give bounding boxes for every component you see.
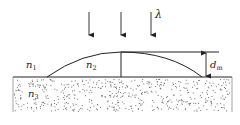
stipple-dot (19, 84, 20, 85)
stipple-dot (141, 104, 142, 105)
stipple-dot (56, 104, 57, 105)
stipple-dot (134, 80, 135, 81)
stipple-dot (118, 105, 119, 106)
stipple-dot (74, 90, 75, 91)
stipple-dot (31, 107, 32, 108)
stipple-dot (151, 87, 152, 88)
medium-n1-label: n1 (26, 59, 37, 72)
stipple-dot (105, 83, 106, 84)
stipple-dot (159, 86, 160, 87)
stipple-dot (159, 79, 160, 80)
stipple-dot (226, 79, 227, 80)
stipple-dot (68, 87, 69, 88)
stipple-dot (113, 107, 114, 108)
stipple-dot (14, 95, 15, 96)
stipple-dot (58, 109, 59, 110)
stipple-dot (47, 95, 48, 96)
stipple-dot (33, 84, 34, 85)
stipple-dot (64, 85, 65, 86)
stipple-dot (186, 80, 187, 81)
stipple-dot (167, 80, 168, 81)
stipple-dot (68, 95, 69, 96)
stipple-dot (197, 84, 198, 85)
stipple-dot (223, 99, 224, 100)
stipple-dot (64, 95, 65, 96)
stipple-dot (213, 90, 214, 91)
stipple-dot (221, 89, 222, 90)
stipple-dot (36, 109, 37, 110)
stipple-dot (116, 93, 117, 94)
stipple-dot (188, 92, 189, 93)
stipple-dot (118, 110, 119, 111)
stipple-dot (229, 83, 230, 84)
stipple-dot (194, 85, 195, 86)
stipple-dot (131, 81, 132, 82)
stipple-dot (43, 85, 44, 86)
stipple-dot (16, 101, 17, 102)
stipple-dot (186, 102, 187, 103)
stipple-dot (43, 105, 44, 106)
stipple-dot (97, 109, 98, 110)
stipple-dot (44, 89, 45, 90)
stipple-dot (99, 80, 100, 81)
stipple-dot (206, 92, 207, 93)
stipple-dot (112, 93, 113, 94)
stipple-dot (66, 102, 67, 103)
stipple-dot (195, 103, 196, 104)
stipple-dot (36, 104, 37, 105)
stipple-dot (46, 98, 47, 99)
stipple-dot (121, 82, 122, 83)
stipple-dot (124, 103, 125, 104)
stipple-dot (114, 79, 115, 80)
stipple-dot (73, 104, 74, 105)
stipple-dot (37, 81, 38, 82)
stipple-dot (160, 84, 161, 85)
stipple-dot (31, 109, 32, 110)
stipple-dot (161, 82, 162, 83)
stipple-dot (72, 91, 73, 92)
stipple-dot (173, 84, 174, 85)
stipple-dot (149, 87, 150, 88)
stipple-dot (142, 104, 143, 105)
stipple-dot (131, 106, 132, 107)
stipple-dot (180, 82, 181, 83)
stipple-dot (197, 82, 198, 83)
stipple-dot (222, 96, 223, 97)
stipple-dot (87, 109, 88, 110)
stipple-dot (118, 91, 119, 92)
stipple-dot (173, 95, 174, 96)
stipple-dot (91, 92, 92, 93)
stipple-dot (189, 104, 190, 105)
stipple-dot (188, 103, 189, 104)
stipple-dot (225, 88, 226, 89)
stipple-dot (114, 109, 115, 110)
stipple-dot (161, 96, 162, 97)
stipple-dot (23, 104, 24, 105)
stipple-dot (187, 90, 188, 91)
stipple-dot (18, 106, 19, 107)
stipple-dot (206, 100, 207, 101)
stipple-dot (221, 107, 222, 108)
stipple-dot (92, 87, 93, 88)
stipple-dot (44, 87, 45, 88)
stipple-dot (224, 87, 225, 88)
stipple-dot (125, 87, 126, 88)
stipple-dot (131, 97, 132, 98)
stipple-dot (90, 90, 91, 91)
stipple-dot (21, 106, 22, 107)
stipple-dot (18, 104, 19, 105)
stipple-dot (33, 86, 34, 87)
stipple-dot (76, 104, 77, 105)
stipple-dot (50, 85, 51, 86)
stipple-dot (167, 96, 168, 97)
stipple-dot (52, 81, 53, 82)
stipple-dot (119, 108, 120, 109)
stipple-dot (58, 102, 59, 103)
stipple-dot (27, 103, 28, 104)
stipple-dot (140, 90, 141, 91)
stipple-dot (86, 90, 87, 91)
stipple-dot (97, 82, 98, 83)
stipple-dot (95, 87, 96, 88)
stipple-dot (140, 105, 141, 106)
stipple-dot (36, 107, 37, 108)
